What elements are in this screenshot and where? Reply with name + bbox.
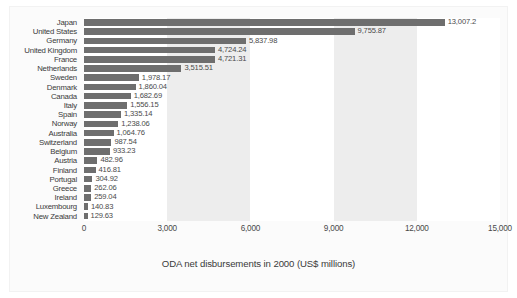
bar[interactable]	[84, 65, 181, 72]
bar[interactable]	[84, 102, 127, 109]
chart-figure: 13,007.29,755.875,837.984,724.244,721.31…	[0, 0, 517, 298]
bar-value-label: 1,978.17	[142, 73, 170, 82]
x-tick-label: 6,000	[241, 223, 261, 235]
bar-row[interactable]: 5,837.98	[84, 36, 500, 45]
bar[interactable]	[84, 74, 139, 81]
category-label: Spain	[0, 110, 80, 119]
category-label: Canada	[0, 92, 80, 101]
bar-row[interactable]: 933.23	[84, 147, 500, 156]
category-label: Belgium	[0, 147, 80, 156]
bar-value-label: 13,007.2	[448, 17, 476, 26]
bar[interactable]	[84, 28, 355, 35]
bar-value-label: 129.63	[91, 211, 113, 220]
bar-row[interactable]: 140.83	[84, 202, 500, 211]
bar-value-label: 1,064.76	[117, 128, 145, 137]
bar[interactable]	[84, 167, 96, 174]
bar-value-label: 304.92	[95, 174, 117, 183]
bar-value-label: 416.81	[99, 165, 121, 174]
bar-value-label: 482.96	[100, 155, 122, 164]
category-label: Austria	[0, 156, 80, 165]
category-label: Japan	[0, 18, 80, 27]
bar-value-label: 1,682.69	[134, 91, 162, 100]
category-label: New Zealand	[0, 212, 80, 221]
bar-row[interactable]: 4,724.24	[84, 46, 500, 55]
category-label: Sweden	[0, 73, 80, 82]
bar-value-label: 3,515.51	[184, 63, 212, 72]
bar[interactable]	[84, 121, 118, 128]
bar[interactable]	[84, 56, 215, 63]
x-tick-label: 12,000	[405, 223, 429, 235]
bar-row[interactable]: 9,755.87	[84, 27, 500, 36]
bar-value-label: 9,755.87	[358, 26, 386, 35]
category-label: United States	[0, 27, 80, 36]
bar-row[interactable]: 4,721.31	[84, 55, 500, 64]
x-tick-label: 9,000	[324, 223, 344, 235]
bar-row[interactable]: 262.06	[84, 184, 500, 193]
bar-row[interactable]: 1,064.76	[84, 129, 500, 138]
bar-row[interactable]: 13,007.2	[84, 18, 500, 27]
bar-value-label: 1,556.15	[130, 100, 158, 109]
x-tick-label: 3,000	[157, 223, 177, 235]
category-label: Portugal	[0, 175, 80, 184]
category-label: Germany	[0, 36, 80, 45]
x-axis-title: ODA net disbursements in 2000 (US$ milli…	[0, 258, 517, 269]
category-label: Switzerland	[0, 138, 80, 147]
category-label: Ireland	[0, 193, 80, 202]
bar[interactable]	[84, 203, 88, 210]
bar[interactable]	[84, 213, 88, 220]
bar[interactable]	[84, 93, 131, 100]
bar-rows: 13,007.29,755.875,837.984,724.244,721.31…	[84, 18, 500, 221]
x-tick-label: 15,000	[488, 223, 512, 235]
bar[interactable]	[84, 185, 91, 192]
plot-area: 13,007.29,755.875,837.984,724.244,721.31…	[84, 18, 500, 221]
bar[interactable]	[84, 84, 136, 91]
bar-row[interactable]: 259.04	[84, 193, 500, 202]
bar-row[interactable]: 416.81	[84, 166, 500, 175]
category-label: Italy	[0, 101, 80, 110]
value-axis: 03,0006,0009,00012,00015,000	[84, 223, 500, 237]
bar[interactable]	[84, 47, 215, 54]
bar-value-label: 933.23	[113, 146, 135, 155]
bar[interactable]	[84, 19, 445, 26]
category-label: Australia	[0, 129, 80, 138]
bar-row[interactable]: 1,238.06	[84, 119, 500, 128]
category-label: Norway	[0, 119, 80, 128]
bar[interactable]	[84, 130, 114, 137]
bar-value-label: 259.04	[94, 192, 116, 201]
category-label: Greece	[0, 184, 80, 193]
category-label: Luxembourg	[0, 202, 80, 211]
bar-row[interactable]: 129.63	[84, 212, 500, 221]
category-label: Finland	[0, 166, 80, 175]
bar-value-label: 1,860.04	[139, 82, 167, 91]
category-label: United Kingdom	[0, 46, 80, 55]
bar-value-label: 5,837.98	[249, 36, 277, 45]
bar[interactable]	[84, 176, 92, 183]
bar-value-label: 262.06	[94, 183, 116, 192]
bar-value-label: 1,238.06	[121, 119, 149, 128]
bar-value-label: 4,721.31	[218, 54, 246, 63]
bar-value-label: 1,335.14	[124, 109, 152, 118]
category-label: Netherlands	[0, 64, 80, 73]
bar[interactable]	[84, 38, 246, 45]
bar-value-label: 987.54	[114, 137, 136, 146]
category-label: Denmark	[0, 83, 80, 92]
bar-value-label: 4,724.24	[218, 45, 246, 54]
bar[interactable]	[84, 111, 121, 118]
bar-row[interactable]: 482.96	[84, 156, 500, 165]
bar-row[interactable]: 304.92	[84, 175, 500, 184]
category-label: France	[0, 55, 80, 64]
bar-value-label: 140.83	[91, 202, 113, 211]
category-axis-labels: JapanUnited StatesGermanyUnited KingdomF…	[0, 18, 80, 221]
bar[interactable]	[84, 157, 97, 164]
bar[interactable]	[84, 139, 111, 146]
x-tick-label: 0	[82, 223, 86, 235]
bar[interactable]	[84, 194, 91, 201]
bar-row[interactable]: 987.54	[84, 138, 500, 147]
bar[interactable]	[84, 148, 110, 155]
